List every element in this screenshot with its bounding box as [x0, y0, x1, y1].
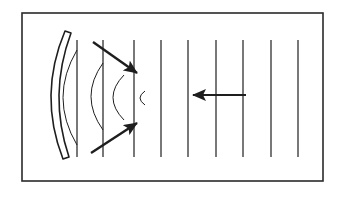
wave-reflection-diagram	[0, 0, 337, 205]
reflected-wavefronts	[63, 50, 145, 145]
converging-ray-arrow	[91, 123, 137, 153]
reflected-wavefront-arc	[91, 63, 103, 130]
mirror-band	[51, 31, 71, 159]
diagram-stage	[0, 0, 337, 205]
ray-arrows	[91, 42, 246, 153]
reflected-wavefront-arc	[113, 75, 124, 120]
concave-mirror	[51, 31, 71, 159]
reflected-wavefront-arc	[140, 91, 145, 105]
reflected-wavefront-arc	[63, 50, 77, 145]
